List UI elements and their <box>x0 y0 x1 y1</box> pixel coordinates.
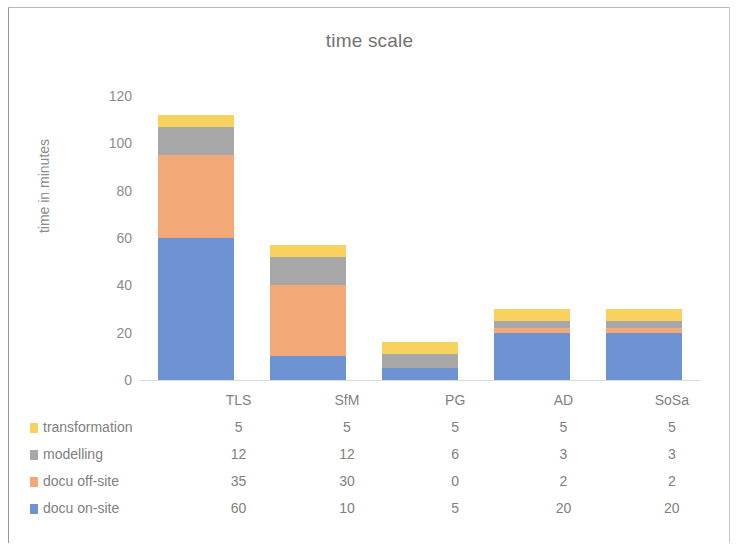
table-row: docu on-site601052020 <box>14 494 726 521</box>
bar-segment <box>158 238 234 380</box>
table-corner-cell <box>14 386 184 413</box>
y-axis-tick-label: 100 <box>92 135 132 151</box>
bar-column-ad <box>494 309 570 380</box>
legend-entry: docu off-site <box>14 467 184 494</box>
plot-area <box>140 96 700 380</box>
bar-column-sfm <box>270 245 346 380</box>
y-axis-tick-label: 40 <box>92 277 132 293</box>
table-header-row: TLSSfMPGADSoSa <box>14 386 726 413</box>
table-cell-value: 5 <box>509 413 617 440</box>
table-cell-value: 12 <box>184 440 292 467</box>
bar-segment <box>606 333 682 380</box>
table-cell-value: 2 <box>509 467 617 494</box>
table-cell-value: 2 <box>618 467 726 494</box>
table-cell-value: 5 <box>401 494 509 521</box>
data-table-body: transformation55555modelling1212633docu … <box>14 413 726 521</box>
bar-segment <box>382 368 458 380</box>
chart-page: time scale time in minutes 0204060801001… <box>0 0 739 546</box>
table-cell-value: 5 <box>401 413 509 440</box>
table-cell-value: 3 <box>618 440 726 467</box>
legend-entry: modelling <box>14 440 184 467</box>
bar-segment <box>382 354 458 368</box>
y-axis-tick-label: 20 <box>92 325 132 341</box>
y-axis-tick-label: 120 <box>92 88 132 104</box>
legend-swatch-icon <box>30 450 38 460</box>
legend-entry: transformation <box>14 413 184 440</box>
x-axis-baseline <box>140 380 700 381</box>
table-cell-value: 60 <box>184 494 292 521</box>
table-column-header: AD <box>509 386 617 413</box>
table-cell-value: 30 <box>293 467 401 494</box>
table-cell-value: 5 <box>618 413 726 440</box>
table-cell-value: 5 <box>293 413 401 440</box>
bar-segment <box>606 321 682 328</box>
table-cell-value: 12 <box>293 440 401 467</box>
table-column-header: TLS <box>184 386 292 413</box>
bar-segment <box>494 333 570 380</box>
legend-swatch-icon <box>30 423 38 433</box>
bar-column-pg <box>382 342 458 380</box>
table-column-header: SfM <box>293 386 401 413</box>
legend-entry: docu on-site <box>14 494 184 521</box>
bar-segment <box>158 155 234 238</box>
legend-label: docu on-site <box>43 500 119 516</box>
table-cell-value: 6 <box>401 440 509 467</box>
bar-column-sosa <box>606 309 682 380</box>
legend-swatch-icon <box>30 504 38 514</box>
table-row: transformation55555 <box>14 413 726 440</box>
data-table: TLSSfMPGADSoSa transformation55555modell… <box>14 386 726 521</box>
legend-label: docu off-site <box>43 473 119 489</box>
table-cell-value: 3 <box>509 440 617 467</box>
bar-segment <box>382 342 458 354</box>
legend-swatch-icon <box>30 477 38 487</box>
bar-segment <box>494 309 570 321</box>
bar-segment <box>270 285 346 356</box>
table-cell-value: 10 <box>293 494 401 521</box>
table-row: docu off-site3530022 <box>14 467 726 494</box>
data-table-head: TLSSfMPGADSoSa <box>14 386 726 413</box>
table-cell-value: 20 <box>509 494 617 521</box>
bar-column-tls <box>158 115 234 380</box>
table-column-header: SoSa <box>618 386 726 413</box>
y-axis-tick-label: 60 <box>92 230 132 246</box>
table-cell-value: 35 <box>184 467 292 494</box>
y-axis-tick-label: 80 <box>92 183 132 199</box>
table-cell-value: 0 <box>401 467 509 494</box>
y-axis-title: time in minutes <box>36 86 52 286</box>
bar-segment <box>158 127 234 155</box>
legend-label: modelling <box>43 446 103 462</box>
bar-segment <box>270 356 346 380</box>
bar-segment <box>270 257 346 285</box>
table-cell-value: 5 <box>184 413 292 440</box>
legend-label: transformation <box>43 419 132 435</box>
table-row: modelling1212633 <box>14 440 726 467</box>
table-cell-value: 20 <box>618 494 726 521</box>
bar-segment <box>270 245 346 257</box>
table-column-header: PG <box>401 386 509 413</box>
bar-segment <box>494 321 570 328</box>
bar-segment <box>606 309 682 321</box>
bar-segment <box>158 115 234 127</box>
